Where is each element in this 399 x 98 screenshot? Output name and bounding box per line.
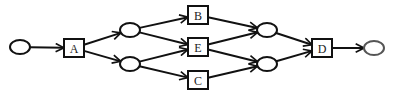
transition-D: D: [312, 39, 332, 57]
transition-B: B: [188, 6, 208, 24]
transition-label: E: [194, 41, 201, 55]
place-p4: [257, 57, 277, 71]
arc-p4-to-D: [276, 51, 312, 61]
transition-label: D: [318, 42, 327, 56]
petri-net-diagram: ABECD: [0, 0, 399, 98]
transition-C: C: [188, 71, 208, 89]
transition-label: C: [194, 74, 202, 88]
place-p2: [120, 57, 140, 71]
transition-label: A: [70, 42, 79, 56]
arc-A-to-p2: [84, 51, 121, 61]
nodes-layer: ABECD: [10, 6, 384, 89]
arc-p1-to-B: [140, 17, 188, 28]
place-p3: [257, 23, 277, 37]
arc-p2-to-E: [139, 50, 188, 62]
arc-p3-to-D: [276, 33, 312, 45]
transition-label: B: [194, 9, 202, 23]
arc-E-to-p4: [208, 49, 258, 61]
arc-C-to-p4: [208, 66, 258, 77]
place-p_start: [10, 40, 30, 54]
arc-B-to-p3: [208, 17, 257, 28]
arc-p1-to-E: [139, 32, 188, 44]
transition-E: E: [188, 38, 208, 56]
arc-p2-to-C: [139, 66, 188, 77]
arc-E-to-p3: [208, 32, 258, 44]
place-p1: [120, 23, 140, 37]
arc-p_start-to-A: [30, 47, 64, 48]
transition-A: A: [64, 39, 84, 57]
place-p_end: [364, 41, 384, 55]
arc-A-to-p1: [84, 33, 121, 45]
